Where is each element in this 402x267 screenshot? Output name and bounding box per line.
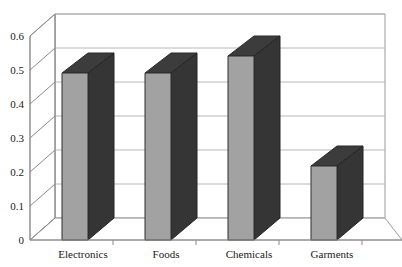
y-tick-labels: 0.6 0.5 0.4 0.3 0.2 0.1 0 — [10, 30, 24, 246]
y-tick-label-0.5: 0.5 — [10, 64, 24, 76]
x-label-foods: Foods — [153, 248, 180, 260]
y-tick-label-0: 0 — [19, 234, 25, 246]
x-axis — [30, 240, 402, 245]
bar-electronics[interactable] — [62, 53, 114, 240]
x-label-garments: Garments — [311, 248, 354, 260]
y-tick-label-0.1: 0.1 — [10, 200, 24, 212]
bar-electronics-front — [62, 73, 88, 240]
y-tick-label-0.4: 0.4 — [10, 98, 24, 110]
x-label-electronics: Electronics — [58, 248, 107, 260]
x-category-labels: Electronics Foods Chemicals Garments — [58, 248, 353, 260]
bar-chemicals-front — [228, 56, 254, 240]
bar-foods[interactable] — [145, 53, 197, 240]
x-label-chemicals: Chemicals — [226, 248, 272, 260]
bar-electronics-side — [88, 53, 114, 240]
bar-chemicals-side — [254, 36, 280, 240]
bar-chart: 0.6 0.5 0.4 0.3 0.2 0.1 0 Electronics Fo… — [0, 0, 402, 267]
y-tick-label-0.2: 0.2 — [10, 166, 24, 178]
chart-canvas: 0.6 0.5 0.4 0.3 0.2 0.1 0 Electronics Fo… — [0, 0, 402, 267]
bar-chemicals[interactable] — [228, 36, 280, 240]
bar-foods-side — [171, 53, 197, 240]
bar-foods-front — [145, 73, 171, 240]
bar-garments-front — [311, 166, 337, 240]
y-tick-label-0.3: 0.3 — [10, 132, 24, 144]
y-tick-label-0.6: 0.6 — [10, 30, 24, 42]
